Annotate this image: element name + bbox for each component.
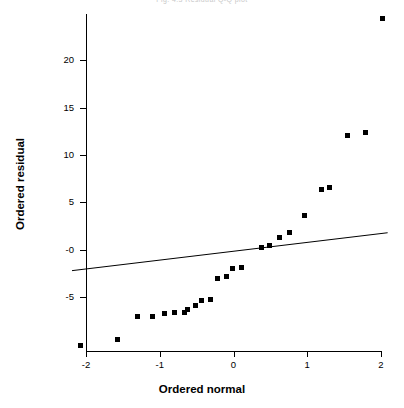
x-tick-mark xyxy=(86,351,87,357)
y-tick-mark xyxy=(80,250,86,251)
x-axis-title: Ordered normal xyxy=(0,383,404,395)
scatter-point xyxy=(319,187,324,192)
scatter-point xyxy=(363,130,368,135)
y-axis-title: Ordered residual xyxy=(14,84,26,284)
scatter-point xyxy=(239,265,244,270)
scatter-point xyxy=(287,230,292,235)
y-tick-mark xyxy=(80,108,86,109)
scatter-point xyxy=(259,245,264,250)
y-tick-mark xyxy=(80,60,86,61)
scatter-point xyxy=(135,314,140,319)
x-tick-mark xyxy=(381,351,382,357)
chart-title: Fig. 4.3 Residual Q-Q plot xyxy=(0,0,404,4)
scatter-point xyxy=(267,243,272,248)
y-tick-label: 15 xyxy=(50,103,74,113)
y-tick-label: -0 xyxy=(50,245,74,255)
y-tick-label: 10 xyxy=(50,150,74,160)
chart-root: Fig. 4.3 Residual Q-Q plot -5-05101520 -… xyxy=(0,0,404,408)
x-tick-mark xyxy=(307,351,308,357)
x-tick-label: -2 xyxy=(71,360,101,370)
y-tick-mark xyxy=(80,297,86,298)
scatter-point xyxy=(277,235,282,240)
x-tick-label: -1 xyxy=(145,360,175,370)
scatter-point xyxy=(215,276,220,281)
y-tick-label: 20 xyxy=(50,55,74,65)
x-tick-label: 0 xyxy=(219,360,249,370)
scatter-point xyxy=(115,337,120,342)
y-axis-line xyxy=(86,14,87,351)
x-tick-label: 1 xyxy=(292,360,322,370)
scatter-point xyxy=(199,298,204,303)
scatter-point xyxy=(208,297,213,302)
scatter-point xyxy=(162,311,167,316)
y-tick-label: -5 xyxy=(50,292,74,302)
y-tick-mark xyxy=(80,155,86,156)
x-tick-label: 2 xyxy=(366,360,396,370)
scatter-point xyxy=(302,213,307,218)
x-tick-mark xyxy=(234,351,235,357)
scatter-point xyxy=(193,303,198,308)
scatter-point xyxy=(185,307,190,312)
y-tick-mark xyxy=(80,202,86,203)
scatter-point xyxy=(230,266,235,271)
scatter-point xyxy=(345,133,350,138)
scatter-point xyxy=(380,16,385,21)
scatter-point xyxy=(224,274,229,279)
scatter-point xyxy=(78,343,83,348)
scatter-point xyxy=(172,310,177,315)
scatter-point xyxy=(150,314,155,319)
x-tick-mark xyxy=(160,351,161,357)
y-tick-label: 5 xyxy=(50,197,74,207)
scatter-point xyxy=(327,185,332,190)
